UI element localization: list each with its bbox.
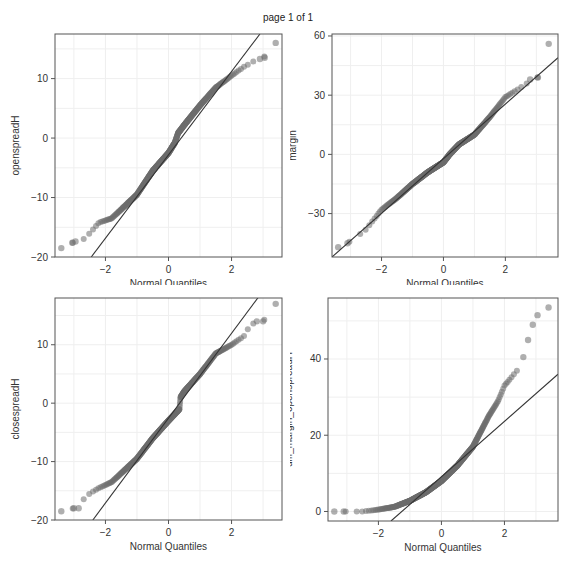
- reference-line: [332, 58, 558, 257]
- svg-text:−2: −2: [376, 264, 388, 275]
- y-axis: −20−10010: [31, 339, 55, 525]
- svg-text:2: 2: [229, 527, 235, 538]
- y-axis-label: openspreadH: [10, 115, 21, 175]
- x-axis: −202: [100, 520, 235, 538]
- y-axis: −3003060: [308, 30, 332, 219]
- svg-text:40: 40: [310, 353, 322, 364]
- qq-plot-margin: −202Normal Quantiles−3003060margin: [290, 0, 576, 285]
- qq-plot-openspreadH: −202Normal Quantiles−20−10010openspreadH: [0, 0, 290, 285]
- svg-text:−10: −10: [31, 456, 48, 467]
- qq-plot-diff-margin-openspreadH: −202Normal Quantiles02040diff_margin_ope…: [290, 285, 576, 567]
- svg-text:20: 20: [310, 430, 322, 441]
- svg-text:0: 0: [319, 149, 325, 160]
- x-axis-label: Normal Quantiles: [130, 541, 207, 552]
- x-axis: −202: [373, 521, 508, 539]
- x-axis: −202: [376, 257, 509, 275]
- reference-line: [391, 374, 558, 521]
- y-axis-label: margin: [290, 130, 298, 161]
- svg-text:10: 10: [37, 73, 49, 84]
- plot-frame: [332, 34, 558, 257]
- y-axis: 02040: [310, 353, 328, 516]
- svg-text:0: 0: [42, 133, 48, 144]
- svg-text:2: 2: [502, 528, 508, 539]
- svg-text:−10: −10: [31, 192, 48, 203]
- svg-text:−2: −2: [373, 528, 385, 539]
- svg-text:0: 0: [441, 264, 447, 275]
- svg-text:10: 10: [37, 339, 49, 350]
- svg-text:−2: −2: [100, 264, 112, 275]
- svg-text:2: 2: [229, 264, 235, 275]
- svg-text:0: 0: [42, 398, 48, 409]
- y-axis: −20−10010: [31, 73, 55, 262]
- svg-text:2: 2: [503, 264, 509, 275]
- x-axis-label: Normal Quantiles: [404, 542, 481, 553]
- qq-plot-closespreadH: −202Normal Quantiles−20−10010closespread…: [0, 285, 290, 567]
- y-axis-label: closespreadH: [10, 378, 21, 439]
- x-axis-label: Normal Quantiles: [130, 278, 207, 285]
- svg-text:−30: −30: [308, 208, 325, 219]
- svg-text:0: 0: [315, 506, 321, 517]
- svg-text:60: 60: [314, 30, 326, 41]
- svg-text:−20: −20: [31, 252, 48, 263]
- grid-lines: [332, 34, 558, 257]
- grid-lines: [328, 298, 558, 521]
- svg-text:−2: −2: [100, 527, 112, 538]
- svg-text:−20: −20: [31, 515, 48, 526]
- plot-frame: [328, 298, 558, 521]
- svg-text:0: 0: [166, 264, 172, 275]
- svg-text:0: 0: [166, 527, 172, 538]
- x-axis: −202: [100, 257, 235, 275]
- x-axis-label: Normal Quantiles: [406, 278, 483, 285]
- reference-line: [91, 34, 260, 257]
- svg-text:30: 30: [314, 90, 326, 101]
- footer-caption-cutoff: [18, 558, 398, 567]
- svg-text:0: 0: [439, 528, 445, 539]
- reference-line: [93, 295, 260, 520]
- y-axis-label: diff_margin_openspreadH: [290, 352, 294, 467]
